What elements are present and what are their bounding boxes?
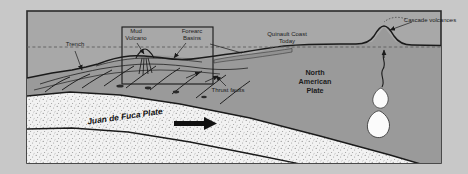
label-forearc-basins-line1: Forearc xyxy=(182,28,203,34)
label-north-american-plate-line3: Plate xyxy=(306,86,323,95)
label-forearc-basins-line2: Basins xyxy=(183,35,201,41)
label-north-american-plate-line1: North xyxy=(305,68,324,77)
label-quinault-coast-line2: Today xyxy=(279,38,295,44)
label-trench: Trench xyxy=(66,41,84,47)
cross-section-canvas: Trench Mud Volcano Forearc Basins Quinau… xyxy=(0,0,468,174)
label-mud-volcano-line2: Volcano xyxy=(125,35,147,41)
label-north-american-plate-line2: American xyxy=(299,77,332,86)
label-cascade-volcanoes: Cascade volcanoes xyxy=(404,17,456,23)
label-quinault-coast-line1: Quinault Coast xyxy=(267,31,307,37)
geologic-cross-section-figure: Trench Mud Volcano Forearc Basins Quinau… xyxy=(0,0,468,174)
label-mud-volcano-line1: Mud xyxy=(130,28,142,34)
label-thrust-faults: Thrust faults xyxy=(211,87,244,93)
